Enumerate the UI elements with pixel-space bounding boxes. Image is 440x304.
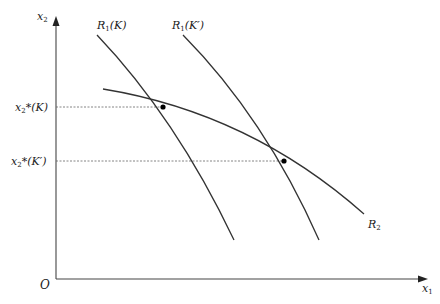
curve-R2 xyxy=(103,89,364,214)
x-axis-label: x1 xyxy=(422,282,433,296)
curve-R1-K xyxy=(97,35,234,240)
equilibrium-point-K xyxy=(160,104,165,109)
label-R2: R2 xyxy=(367,218,381,232)
y-tick-x2star-K: x2*(K) xyxy=(15,101,48,115)
equilibrium-point-Kprime xyxy=(281,158,286,163)
label-R1-K: R1(K) xyxy=(96,19,127,33)
origin-label: O xyxy=(40,278,50,292)
y-tick-x2star-Kprime: x2*(K′) xyxy=(11,155,47,169)
y-axis-label: x2 xyxy=(37,10,48,24)
label-R1-Kprime: R1(K′) xyxy=(171,19,204,33)
axes xyxy=(53,16,429,283)
reaction-function-diagram: x2 x1 O x2*(K) x2*(K′) R1(K) R1(K′) R2 xyxy=(0,0,440,304)
y-axis-arrow-icon xyxy=(53,16,60,26)
